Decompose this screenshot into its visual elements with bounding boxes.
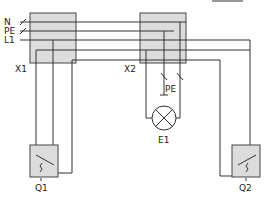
junction-box-x2 <box>140 13 186 63</box>
label-q2: Q2 <box>239 183 252 193</box>
switch-q1 <box>30 145 58 177</box>
pe-label: PE <box>165 84 176 94</box>
label-q1: Q1 <box>35 183 48 193</box>
label-e1: E1 <box>158 135 169 145</box>
wiring-diagram: PE E1 Q1 Q2 N PE L1 X1 X2 <box>0 0 264 200</box>
label-x1: X1 <box>15 64 27 74</box>
label-x2: X2 <box>124 64 136 74</box>
label-l1: L1 <box>4 35 15 45</box>
